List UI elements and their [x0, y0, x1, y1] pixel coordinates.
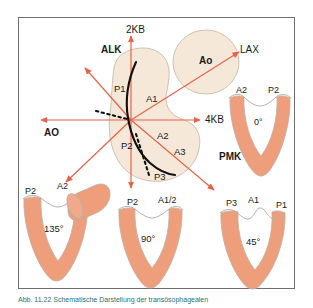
commissure-label-alk: ALK — [101, 45, 122, 55]
plane-label-2kb: 2KB — [126, 25, 145, 35]
segment-label-a1: A1 — [146, 94, 158, 104]
segment-label-p1: P1 — [114, 84, 126, 94]
diagram-canvas — [0, 0, 313, 308]
valve-45-label-a1: A1 — [248, 196, 259, 205]
figure-root: 2KB 4KB LAX AO ALK PMK Ao P1 A1 P2 A2 A3… — [0, 0, 313, 308]
segment-label-a3: A3 — [174, 147, 186, 157]
aorta-label: Ao — [199, 56, 212, 66]
figure-caption: Abb. 11.22 Schematische Darstellung der … — [18, 296, 308, 308]
aorta-cylinder-135 — [64, 184, 110, 221]
valve-leaflet-body-45 — [221, 211, 285, 289]
valve-0-label-p2: P2 — [268, 86, 279, 95]
segment-label-p2: P2 — [121, 141, 133, 151]
valve-45-label-p3: P3 — [226, 199, 237, 208]
plane-label-lax: LAX — [240, 45, 259, 55]
plane-label-ao-left: AO — [44, 128, 59, 138]
valve-135-label-p2: P2 — [25, 187, 36, 196]
commissure-label-pmk: PMK — [219, 152, 241, 162]
valve-view-90 — [118, 206, 183, 288]
valve-135-label-a2: A2 — [57, 182, 68, 191]
valve-135-angle: 135° — [44, 224, 64, 234]
valve-90-label-p2: P2 — [127, 198, 138, 207]
valve-view-0 — [229, 94, 291, 176]
valve-45-label-p1: P1 — [276, 201, 287, 210]
valve-0-label-a2: A2 — [236, 86, 247, 95]
valve-90-label-a12: A1/2 — [158, 196, 177, 205]
valve-view-135 — [23, 184, 110, 281]
valve-0-angle: 0° — [254, 118, 263, 127]
segment-label-a2: A2 — [157, 131, 169, 141]
valve-45-angle: 45° — [246, 237, 260, 247]
valve-view-45 — [220, 208, 285, 289]
segment-label-p3: P3 — [154, 172, 166, 182]
valve-leaflet-body-90 — [119, 208, 182, 288]
valve-leaflet-body-0 — [230, 96, 290, 176]
valve-90-angle: 90° — [141, 234, 155, 244]
plane-label-4kb: 4KB — [205, 115, 224, 125]
